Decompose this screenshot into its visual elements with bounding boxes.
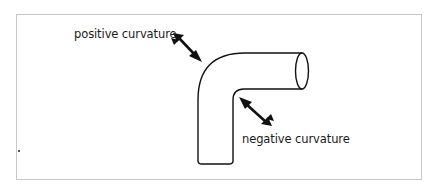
negative-curvature-label: negative curvature: [242, 132, 350, 146]
positive-curvature-label: positive curvature: [74, 27, 177, 41]
pipe-diagram: [0, 0, 438, 188]
negative-curvature-arrow-icon: [239, 97, 274, 126]
bent-pipe: [198, 53, 309, 164]
stray-mark: [18, 150, 20, 152]
diagram-canvas: positive curvature negative curvature: [0, 0, 438, 188]
